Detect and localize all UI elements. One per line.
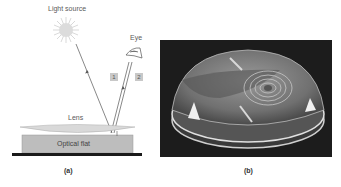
lens-photo [160,40,332,157]
newtons-rings-photo [160,40,332,157]
light-source-label: Light source [48,5,86,12]
ray-label-1: 1 [110,73,118,81]
base-line [12,153,142,156]
caption-a: (a) [64,167,73,174]
eye-icon [126,48,142,58]
sun-icon [53,17,79,43]
lens-shape [20,125,135,133]
eye-label: Eye [130,34,142,41]
ray-label-2: 2 [135,73,143,81]
optical-flat-label: Optical flat [57,140,90,147]
caption-b: (b) [244,167,253,174]
lens-label: Lens [68,114,83,121]
